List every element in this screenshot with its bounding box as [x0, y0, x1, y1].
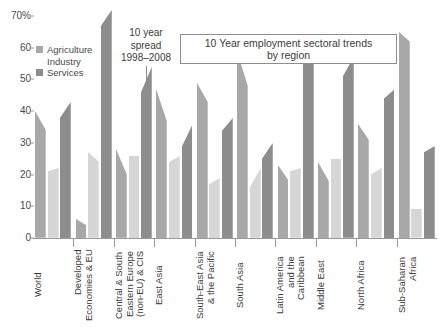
x-axis-label: Central & South Eastern Europe (non-EU) … [114, 246, 154, 324]
series-band-agriculture [76, 219, 87, 238]
annotation-line-3: 1998–2008 [108, 52, 184, 65]
series-band-industry [48, 168, 59, 238]
x-axis-label: Middle East [316, 246, 356, 324]
y-axis-tick-mark [31, 16, 34, 17]
y-axis-tick-label: 10 [20, 201, 31, 211]
x-axis-label: South-East Asia & the Pacific [195, 246, 235, 324]
series-band-services [60, 102, 71, 238]
x-axis-label: Developed Economies & EU [73, 246, 113, 324]
series-band-services [262, 143, 273, 238]
x-axis-label: South Asia [235, 246, 275, 324]
series-band-agriculture [116, 149, 127, 238]
series-band-services [343, 57, 354, 238]
y-axis-tick-label: 20 [20, 170, 31, 180]
annotation-line-1: 10 year [108, 27, 184, 40]
y-axis-tick-mark [31, 238, 34, 239]
series-band-industry [169, 156, 180, 238]
series-band-agriculture [197, 83, 208, 238]
series-band-industry [371, 168, 382, 238]
y-axis-tick-mark [31, 206, 34, 207]
y-axis-tick-mark [31, 142, 34, 143]
series-band-agriculture [156, 89, 167, 238]
employment-sectoral-trends-chart: 010203040506070% Agriculture Industry Se… [0, 0, 442, 327]
annotation-pointer-line [146, 66, 147, 90]
x-axis-label: World [33, 246, 73, 324]
x-axis-label: Latin America and the Caribbean [275, 246, 315, 324]
y-axis-tick-mark [31, 174, 34, 175]
y-axis-tick-mark [31, 79, 34, 80]
series-band-services [182, 124, 193, 238]
series-band-industry [88, 152, 99, 238]
y-axis-tick-mark [31, 111, 34, 112]
chart-title-box: 10 Year employment sectoral trends by re… [180, 34, 397, 64]
legend-swatch-services [36, 69, 43, 76]
spread-annotation: 10 year spread 1998–2008 [108, 27, 184, 65]
legend-label-agriculture: Agriculture [47, 44, 92, 56]
legend-label-services: Services [47, 67, 83, 79]
series-band-services [141, 67, 152, 238]
series-band-services [424, 146, 435, 238]
y-axis-tick-label: 70% [11, 11, 31, 21]
series-band-agriculture [278, 165, 289, 238]
series-band-industry [290, 168, 301, 238]
legend: Agriculture Industry Services [36, 44, 92, 79]
chart-title-line-2: by region [267, 49, 310, 61]
y-axis: 010203040506070% [0, 0, 31, 238]
y-axis-tick-label: 50 [20, 74, 31, 84]
legend-swatch-agriculture [36, 46, 43, 53]
legend-item-agriculture: Agriculture [36, 44, 92, 56]
x-axis-label: East Asia [154, 246, 194, 324]
y-axis-tick-label: 30 [20, 138, 31, 148]
series-band-industry [331, 159, 342, 238]
series-band-services [222, 118, 233, 239]
series-band-industry [129, 156, 140, 238]
annotation-line-2: spread [108, 40, 184, 53]
y-axis-tick-label: 60 [20, 43, 31, 53]
series-band-industry [411, 209, 422, 238]
series-band-agriculture [318, 162, 329, 238]
y-axis-tick-label: 40 [20, 106, 31, 116]
region-group [397, 16, 437, 238]
series-band-agriculture [237, 51, 248, 238]
y-axis-tick-mark [31, 47, 34, 48]
series-band-industry [250, 168, 261, 238]
legend-label-industry: Industry [47, 56, 81, 68]
series-band-services [303, 48, 314, 238]
series-band-services [384, 89, 395, 238]
legend-item-services: Services [36, 67, 92, 79]
series-band-industry [209, 178, 220, 238]
legend-item-industry: Industry [36, 56, 92, 68]
chart-title-line-1: 10 Year employment sectoral trends [205, 37, 373, 49]
series-band-agriculture [358, 124, 369, 238]
series-band-agriculture [35, 111, 46, 238]
series-band-agriculture [399, 32, 410, 238]
x-axis-label: Sub-Saharan Africa [397, 246, 437, 324]
x-axis-label: North Africa [356, 246, 396, 324]
